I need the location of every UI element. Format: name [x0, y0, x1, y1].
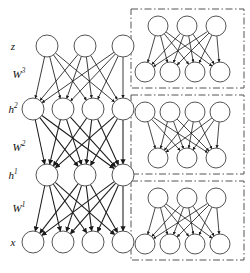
rbm-panel-nodes: [135, 16, 230, 254]
unit-panel-w1-top-2: [177, 188, 197, 208]
unit-panel-w1-top-3: [206, 188, 226, 208]
unit-panel-w3-top-2: [177, 16, 197, 36]
connection-edge: [199, 35, 212, 63]
connection-edge: [148, 122, 156, 149]
unit-panel-w1-bottom-1: [135, 234, 155, 254]
unit-panel-w3-bottom-3: [185, 62, 205, 82]
weight-label-W2: W2: [13, 141, 26, 153]
unit-h2-3: [82, 98, 104, 120]
unit-h2-4: [112, 98, 134, 120]
connection-edge: [148, 208, 156, 235]
connection-edge: [53, 118, 86, 166]
unit-h2-1: [22, 98, 44, 120]
connection-edge: [148, 36, 156, 63]
unit-panel-w3-bottom-1: [135, 62, 155, 82]
unit-panel-w2-top-4: [210, 102, 230, 122]
unit-x-4: [112, 231, 134, 253]
unit-h1-2: [74, 164, 96, 186]
connection-edge: [86, 120, 91, 164]
unit-panel-w1-bottom-2: [160, 234, 180, 254]
unit-panel-w2-bottom-2: [177, 148, 197, 168]
connection-edge: [152, 205, 181, 236]
unit-panel-w3-bottom-4: [210, 62, 230, 82]
connection-edge: [55, 116, 114, 168]
unit-h1-3: [112, 164, 134, 186]
unit-panel-w3-top-1: [148, 16, 168, 36]
unit-panel-w3-bottom-2: [160, 62, 180, 82]
connection-edge: [199, 207, 212, 235]
connection-edge: [217, 36, 219, 62]
unit-z-2: [74, 35, 96, 57]
connection-edge: [152, 119, 181, 150]
unit-h1-1: [36, 164, 58, 186]
connection-edge: [66, 185, 81, 231]
connection-edge: [42, 116, 114, 169]
rbm-panel-boxes: [131, 9, 244, 260]
connection-edge: [53, 55, 86, 100]
connection-edge: [164, 120, 188, 150]
connection-edge: [55, 53, 114, 102]
connection-edge: [86, 186, 91, 231]
unit-panel-w3-top-3: [206, 16, 226, 36]
connection-edge: [164, 206, 188, 236]
layer-label-h2: h2: [8, 103, 17, 115]
connection-edge: [35, 57, 44, 99]
connection-edge: [164, 34, 188, 64]
unit-panel-w2-bottom-1: [148, 148, 168, 168]
layer-label-x: x: [11, 237, 16, 248]
unit-panel-w2-top-3: [185, 102, 205, 122]
connection-edge: [35, 186, 45, 231]
layer-label-h1: h1: [8, 169, 17, 181]
connection-edge: [217, 122, 219, 148]
connection-edge: [55, 182, 114, 234]
weight-label-W3: W3: [13, 68, 26, 80]
left-network-edges: [35, 52, 123, 235]
weight-label-W1: W1: [13, 202, 26, 214]
unit-panel-w2-top-2: [160, 102, 180, 122]
unit-panel-w2-top-1: [135, 102, 155, 122]
connection-edge: [42, 52, 114, 102]
unit-panel-w1-top-1: [148, 188, 168, 208]
connection-edge: [86, 57, 91, 98]
unit-x-1: [22, 231, 44, 253]
network-graphics: [0, 0, 250, 273]
connection-edge: [42, 182, 114, 236]
unit-panel-w1-bottom-3: [185, 234, 205, 254]
connection-edge: [98, 56, 119, 99]
connection-edge: [53, 184, 87, 233]
unit-z-3: [112, 35, 134, 57]
figure-canvas: zh2h1xW3W2W1: [0, 0, 250, 273]
unit-x-3: [82, 231, 104, 253]
connection-edge: [35, 120, 44, 164]
unit-x-2: [52, 231, 74, 253]
connection-edge: [152, 33, 181, 64]
layer-label-z: z: [11, 41, 15, 52]
connection-edge: [217, 208, 219, 234]
unit-h2-2: [52, 98, 74, 120]
unit-panel-w2-bottom-3: [206, 148, 226, 168]
unit-panel-w1-bottom-4: [210, 234, 230, 254]
unit-z-1: [36, 35, 58, 57]
connection-edge: [199, 121, 212, 149]
